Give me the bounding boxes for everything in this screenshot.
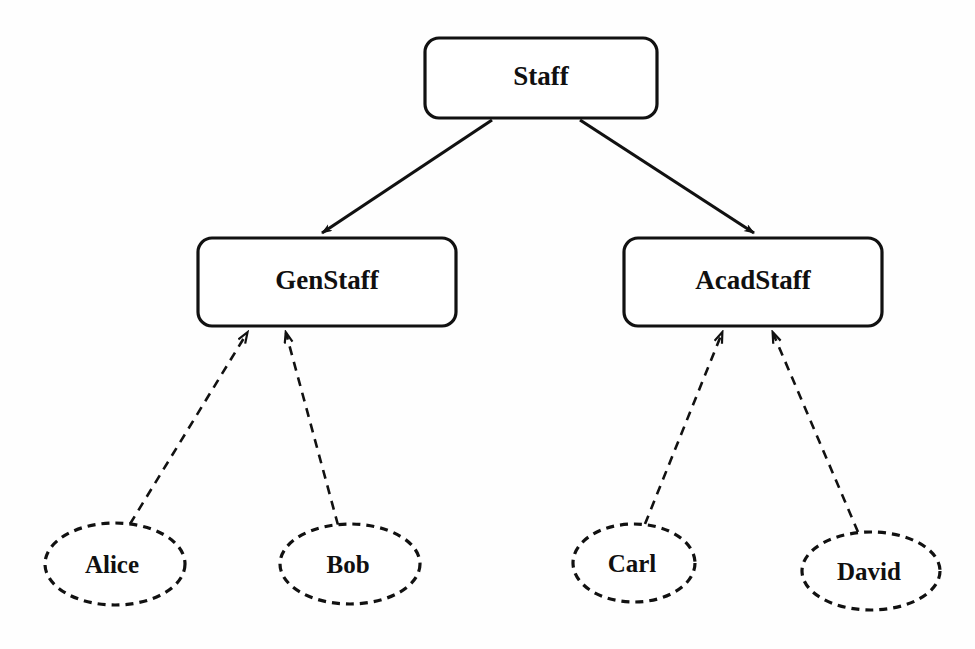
isa-edge-staff-genstaff xyxy=(322,120,492,233)
instanceof-edge-group xyxy=(130,333,858,532)
instanceof-edge-bob-genstaff xyxy=(286,333,338,525)
class-node-staff[interactable]: Staff xyxy=(425,38,657,118)
instanceof-edge-david-acadstaff xyxy=(773,333,858,532)
isa-edge-staff-acadstaff xyxy=(580,120,754,233)
instanceof-edge-alice-genstaff xyxy=(130,333,247,524)
isa-edge-group xyxy=(322,120,754,233)
instance-label-alice: Alice xyxy=(85,551,139,578)
instance-label-david: David xyxy=(837,558,901,585)
instance-label-bob: Bob xyxy=(326,551,369,578)
instance-node-bob[interactable]: Bob xyxy=(280,524,420,604)
instance-node-alice[interactable]: Alice xyxy=(45,523,185,605)
diagram-canvas: Staff GenStaff AcadStaff Alice Bob Carl … xyxy=(0,0,975,649)
class-label-staff: Staff xyxy=(513,61,569,91)
instance-node-carl[interactable]: Carl xyxy=(573,524,695,602)
class-label-genstaff: GenStaff xyxy=(275,265,380,295)
instance-node-david[interactable]: David xyxy=(802,532,940,610)
class-node-acadstaff[interactable]: AcadStaff xyxy=(624,238,882,326)
instance-label-carl: Carl xyxy=(608,550,657,577)
instanceof-edge-carl-acadstaff xyxy=(645,333,722,524)
class-node-genstaff[interactable]: GenStaff xyxy=(198,238,456,326)
diagram-svg: Staff GenStaff AcadStaff Alice Bob Carl … xyxy=(0,0,975,649)
class-label-acadstaff: AcadStaff xyxy=(695,265,811,295)
